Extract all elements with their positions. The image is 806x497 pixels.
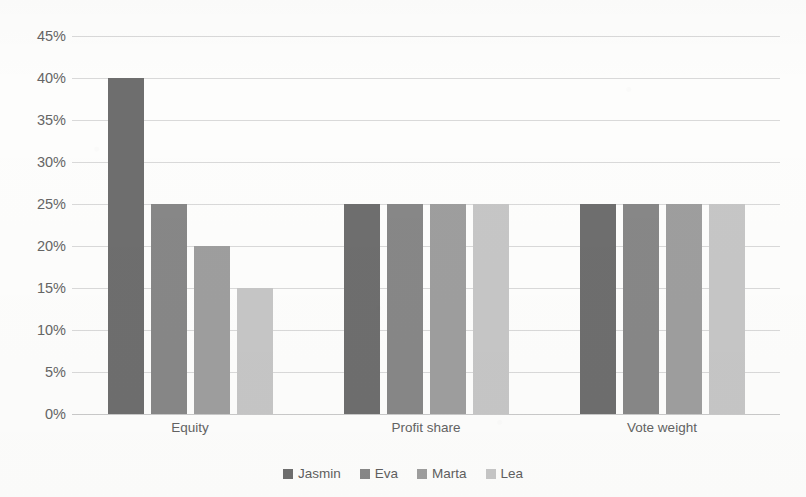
gridline-0 [72,414,780,415]
y-axis-tick-label: 20% [8,239,66,254]
bar [151,204,187,414]
chart-legend: JasminEvaMartaLea [0,466,806,481]
legend-label: Marta [432,466,467,481]
y-axis-tick-label: 10% [8,323,66,338]
legend-item: Lea [486,466,524,481]
bar [473,204,509,414]
y-axis-tick-label: 45% [8,29,66,44]
y-axis-tick-label: 35% [8,113,66,128]
legend-swatch-icon [360,469,370,479]
legend-item: Jasmin [283,466,341,481]
bar-chart: 0%5%10%15%20%25%30%35%40%45% EquityProfi… [0,0,806,497]
x-axis-category-label: Profit share [308,420,544,435]
y-axis-tick-label: 40% [8,71,66,86]
bar [580,204,616,414]
chart-title [0,0,806,4]
bar [194,246,230,414]
bar [344,204,380,414]
bar [430,204,466,414]
gridline-35 [72,120,780,121]
bar [709,204,745,414]
gridline-45 [72,36,780,37]
legend-label: Jasmin [298,466,341,481]
y-axis-tick-label: 15% [8,281,66,296]
gridline-40 [72,78,780,79]
bar [387,204,423,414]
bar [623,204,659,414]
legend-swatch-icon [486,469,496,479]
bar [666,204,702,414]
bar [108,78,144,414]
legend-item: Marta [417,466,467,481]
plot-area: 0%5%10%15%20%25%30%35%40%45% EquityProfi… [72,36,780,414]
legend-item: Eva [360,466,398,481]
legend-label: Eva [375,466,398,481]
y-axis-tick-label: 25% [8,197,66,212]
gridline-30 [72,162,780,163]
x-axis-category-label: Equity [72,420,308,435]
x-axis-category-label: Vote weight [544,420,780,435]
y-axis-tick-label: 0% [8,407,66,422]
legend-swatch-icon [417,469,427,479]
legend-swatch-icon [283,469,293,479]
y-axis-tick-label: 5% [8,365,66,380]
bar [237,288,273,414]
y-axis-tick-label: 30% [8,155,66,170]
legend-label: Lea [501,466,524,481]
